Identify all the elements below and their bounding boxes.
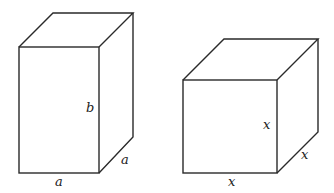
cube-depth-label: x <box>301 147 309 162</box>
cube: x x x <box>183 39 318 189</box>
rectangular-prism: b a a <box>19 13 133 189</box>
cube-height-label: x <box>263 117 271 132</box>
cube-top-face <box>183 39 318 80</box>
prism-top-face <box>19 13 133 47</box>
prism-side-face <box>99 13 133 173</box>
prism-width-label: a <box>55 174 63 189</box>
figure-canvas: b a a x x x <box>0 0 334 193</box>
prism-depth-label: a <box>121 152 129 167</box>
prism-height-label: b <box>86 100 94 115</box>
cube-width-label: x <box>228 174 236 189</box>
